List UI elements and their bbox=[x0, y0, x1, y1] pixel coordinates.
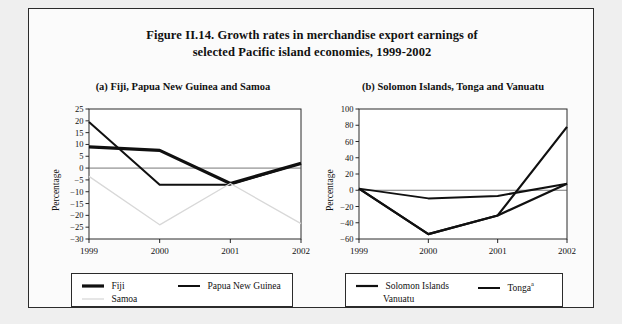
legend-label-papua-new-guinea: Papua New Guinea bbox=[207, 281, 280, 291]
y-tick-label: 40 bbox=[345, 153, 354, 163]
panel-a-plot-area: Percentage 2520151050−5−10−15−20−25−3019… bbox=[47, 103, 319, 243]
x-tick-label: 2000 bbox=[151, 246, 170, 256]
chart-panel-b: (b) Solomon Islands, Tonga and Vanuatu P… bbox=[321, 81, 585, 301]
y-tick-label: −60 bbox=[340, 234, 353, 244]
y-tick-label: −25 bbox=[70, 222, 83, 232]
figure-title: Figure II.14. Growth rates in merchandis… bbox=[29, 27, 595, 61]
chart-panel-a: (a) Fiji, Papua New Guinea and Samoa Per… bbox=[47, 81, 319, 301]
legend-swatch-tonga bbox=[478, 284, 500, 292]
y-tick-label: 20 bbox=[345, 169, 354, 179]
figure-title-line-1: Figure II.14. Growth rates in merchandis… bbox=[29, 27, 595, 44]
legend-item-tonga: Tongaa bbox=[478, 280, 534, 293]
panel-b-svg: 100806040200−20−40−601999200020012002 bbox=[321, 103, 585, 261]
legend-swatch-solomon-islands bbox=[356, 282, 378, 290]
legend-footnote-tonga: a bbox=[531, 280, 534, 287]
panel-b-legend: Solomon Islands Tongaa Vanuatu bbox=[345, 273, 563, 307]
legend-swatch-samoa bbox=[82, 295, 104, 303]
y-tick-label: −20 bbox=[70, 210, 83, 220]
panel-a-svg: 2520151050−5−10−15−20−25−301999200020012… bbox=[47, 103, 319, 261]
y-tick-label: 20 bbox=[75, 116, 84, 126]
y-tick-label: 0 bbox=[79, 163, 83, 173]
legend-item-samoa: Samoa bbox=[82, 293, 137, 304]
x-tick-label: 1999 bbox=[80, 246, 99, 256]
y-tick-label: −10 bbox=[70, 187, 83, 197]
panel-b-title: (b) Solomon Islands, Tonga and Vanuatu bbox=[321, 81, 585, 92]
y-tick-label: 25 bbox=[75, 104, 84, 114]
panel-a-legend: Fiji Papua New Guinea Samoa bbox=[71, 273, 293, 307]
legend-item-papua-new-guinea: Papua New Guinea bbox=[178, 280, 281, 291]
legend-label-tonga: Tonga bbox=[507, 283, 531, 293]
x-tick-label: 2002 bbox=[292, 246, 310, 256]
y-tick-label: −5 bbox=[74, 175, 83, 185]
y-tick-label: −20 bbox=[340, 202, 353, 212]
x-tick-label: 2001 bbox=[221, 246, 239, 256]
y-tick-label: 5 bbox=[79, 151, 83, 161]
y-tick-label: 15 bbox=[75, 128, 84, 138]
legend-label-fiji: Fiji bbox=[111, 281, 124, 291]
y-tick-label: −15 bbox=[70, 199, 83, 209]
y-tick-label: −30 bbox=[70, 234, 83, 244]
x-tick-label: 1999 bbox=[350, 246, 369, 256]
x-tick-label: 2002 bbox=[558, 246, 576, 256]
y-tick-label: 10 bbox=[75, 139, 84, 149]
y-tick-label: 80 bbox=[345, 120, 354, 130]
legend-swatch-fiji bbox=[82, 282, 104, 290]
y-tick-label: −40 bbox=[340, 218, 353, 228]
y-tick-label: 100 bbox=[341, 104, 354, 114]
legend-label-solomon-islands: Solomon Islands bbox=[385, 281, 449, 291]
x-tick-label: 2000 bbox=[419, 246, 438, 256]
x-tick-label: 2001 bbox=[489, 246, 507, 256]
y-tick-label: 60 bbox=[345, 137, 354, 147]
legend-label-samoa: Samoa bbox=[111, 294, 137, 304]
legend-swatch-papua-new-guinea bbox=[178, 282, 200, 290]
y-tick-label: 0 bbox=[349, 185, 353, 195]
panel-b-plot-area: Percentage 100806040200−20−40−6019992000… bbox=[321, 103, 585, 243]
legend-label-vanuatu: Vanuatu bbox=[383, 294, 414, 304]
panel-a-title: (a) Fiji, Papua New Guinea and Samoa bbox=[47, 81, 319, 92]
figure-title-line-2: selected Pacific island economies, 1999-… bbox=[29, 44, 595, 61]
legend-item-vanuatu: Vanuatu bbox=[383, 293, 414, 304]
legend-item-fiji: Fiji bbox=[82, 280, 125, 291]
legend-item-solomon-islands: Solomon Islands bbox=[356, 280, 449, 291]
figure-frame: Figure II.14. Growth rates in merchandis… bbox=[28, 8, 594, 308]
